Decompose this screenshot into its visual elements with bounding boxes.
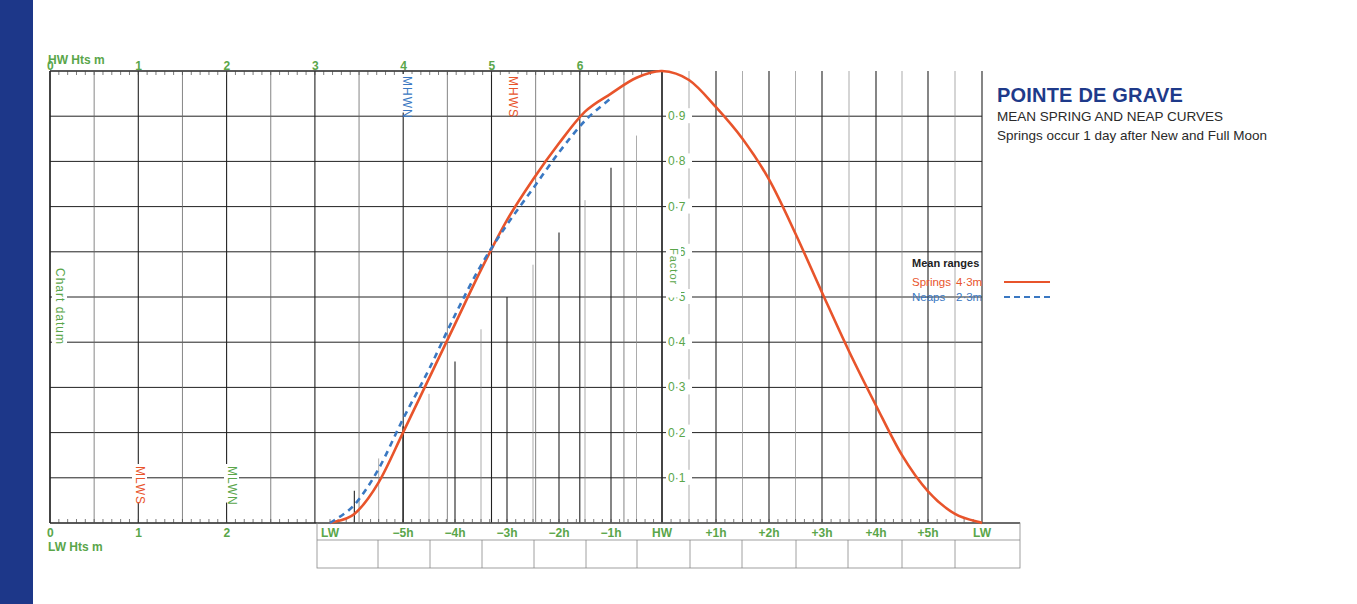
solid-line-icon: [1004, 281, 1050, 283]
svg-text:0·2: 0·2: [668, 426, 686, 440]
svg-text:+2h: +2h: [758, 526, 779, 540]
svg-text:Factor: Factor: [668, 248, 680, 285]
svg-text:6: 6: [577, 59, 584, 73]
svg-text:Chart datum: Chart datum: [53, 268, 67, 345]
title-block: POINTE DE GRAVE MEAN SPRING AND NEAP CUR…: [997, 84, 1267, 144]
legend-range: 2·3m: [956, 291, 1004, 303]
svg-text:0·8: 0·8: [668, 154, 686, 168]
dashed-line-icon: [1004, 296, 1050, 298]
svg-text:2: 2: [224, 59, 231, 73]
svg-text:LW Hts m: LW Hts m: [48, 540, 103, 554]
svg-text:HW: HW: [652, 526, 673, 540]
svg-text:+1h: +1h: [705, 526, 726, 540]
svg-text:MHWS: MHWS: [506, 76, 520, 118]
svg-text:0: 0: [47, 526, 54, 540]
svg-text:+5h: +5h: [917, 526, 938, 540]
svg-text:MLWS: MLWS: [133, 466, 147, 505]
svg-text:−4h: −4h: [444, 526, 465, 540]
svg-text:0·1: 0·1: [668, 471, 686, 485]
svg-text:3: 3: [312, 59, 319, 73]
svg-text:MLWN: MLWN: [225, 466, 239, 506]
svg-text:−3h: −3h: [496, 526, 517, 540]
svg-text:5: 5: [489, 59, 496, 73]
svg-text:LW: LW: [321, 526, 340, 540]
svg-text:1: 1: [135, 59, 142, 73]
svg-text:0·3: 0·3: [668, 380, 686, 394]
svg-text:0: 0: [47, 59, 54, 73]
svg-text:0·9: 0·9: [668, 109, 686, 123]
legend-item-springs: Springs 4·3m: [912, 274, 1050, 289]
svg-text:+3h: +3h: [811, 526, 832, 540]
chart-grid: [50, 71, 1020, 568]
svg-text:2: 2: [224, 526, 231, 540]
legend-name: Neaps: [912, 291, 956, 303]
legend-title: Mean ranges: [912, 257, 1050, 269]
svg-text:−5h: −5h: [392, 526, 413, 540]
legend-item-neaps: Neaps 2·3m: [912, 289, 1050, 304]
svg-text:MHWN: MHWN: [400, 76, 414, 119]
svg-text:+4h: +4h: [865, 526, 886, 540]
svg-text:0·4: 0·4: [668, 335, 686, 349]
svg-text:HW Hts m: HW Hts m: [48, 53, 105, 67]
svg-text:1: 1: [135, 526, 142, 540]
legend-range: 4·3m: [956, 276, 1004, 288]
svg-text:4: 4: [400, 59, 407, 73]
chart-title: POINTE DE GRAVE: [997, 84, 1267, 106]
legend: Mean ranges Springs 4·3m Neaps 2·3m: [912, 257, 1050, 304]
subtitle-line-2: Springs occur 1 day after New and Full M…: [997, 127, 1267, 144]
svg-text:0·7: 0·7: [668, 200, 686, 214]
subtitle-line-1: MEAN SPRING AND NEAP CURVES: [997, 108, 1267, 125]
axis-labels: HW Hts m0123456012LW Hts m0·10·20·30·40·…: [47, 53, 992, 554]
svg-text:LW: LW: [973, 526, 992, 540]
svg-text:−1h: −1h: [600, 526, 621, 540]
legend-name: Springs: [912, 276, 956, 288]
svg-text:−2h: −2h: [548, 526, 569, 540]
